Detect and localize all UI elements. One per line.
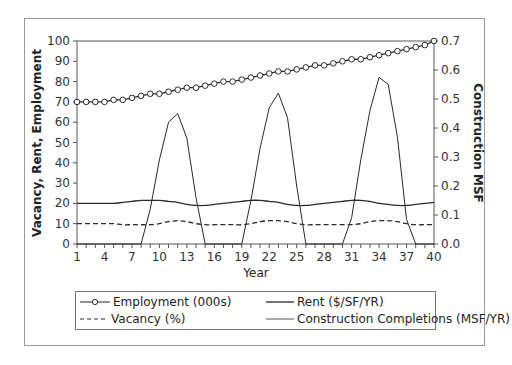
y-tick-label: 40: [55, 156, 70, 170]
y-tick-label: 30: [55, 176, 70, 190]
y2-tick-label: 0.0: [441, 237, 460, 251]
employment-point: [312, 63, 318, 69]
employment-point: [221, 79, 227, 85]
legend-swatch-vacancy: [80, 314, 108, 324]
y2-tick-label: 0.2: [441, 179, 460, 193]
y-tick-label: 60: [55, 115, 70, 129]
employment-point: [212, 81, 218, 87]
y2-axis-title: Construction MSF: [471, 83, 485, 203]
y-axis-title: Vacancy, Rent, Employment: [30, 49, 44, 237]
x-tick-label: 1: [73, 250, 81, 264]
employment-point: [266, 71, 272, 77]
employment-point: [239, 77, 245, 83]
series-line-employment-s: [77, 41, 434, 102]
y-tick-label: 70: [55, 95, 70, 109]
x-tick-label: 25: [289, 250, 304, 264]
x-tick-label: 19: [234, 250, 249, 264]
legend-swatch-employment: [80, 297, 110, 307]
employment-point: [202, 83, 208, 89]
legend-swatch-rent: [266, 297, 294, 307]
y2-tick-label: 0.5: [441, 92, 460, 106]
employment-point: [413, 44, 419, 50]
x-tick-label: 40: [426, 250, 441, 264]
employment-point: [157, 91, 163, 97]
x-tick-label: 10: [152, 250, 167, 264]
y-tick-label: 50: [55, 136, 70, 150]
legend-item-employment: Employment (000s): [80, 294, 231, 310]
series-line-rent-sf-yr: [77, 200, 434, 205]
employment-point: [276, 69, 282, 75]
employment-point: [294, 67, 300, 73]
employment-point: [340, 59, 346, 65]
legend-label-employment: Employment (000s): [113, 295, 231, 309]
x-tick-label: 37: [399, 250, 414, 264]
employment-point: [138, 93, 144, 99]
legend-item-vacancy: Vacancy (%): [80, 311, 185, 327]
legend-label-vacancy: Vacancy (%): [111, 312, 185, 326]
employment-point: [285, 69, 291, 75]
employment-point: [376, 52, 382, 58]
x-tick-label: 22: [262, 250, 277, 264]
x-tick-label: 4: [101, 250, 109, 264]
employment-point: [193, 85, 199, 91]
y-tick-label: 100: [47, 34, 70, 48]
employment-point: [358, 56, 364, 62]
employment-point: [74, 99, 80, 105]
legend-label-rent: Rent ($/SF/YR): [297, 295, 384, 309]
legend-label-construction: Construction Completions (MSF/YR): [297, 312, 510, 326]
y2-tick-label: 0.7: [441, 34, 460, 48]
employment-point: [147, 91, 153, 97]
legend: Employment (000s) Rent ($/SF/YR) Vacancy…: [75, 291, 436, 330]
employment-point: [431, 38, 437, 44]
x-tick-label: 13: [179, 250, 194, 264]
employment-point: [166, 89, 172, 95]
y-tick-label: 0: [62, 237, 70, 251]
employment-point: [331, 61, 337, 67]
employment-point: [120, 97, 126, 103]
employment-point: [129, 95, 135, 101]
series-line-vacancy: [77, 221, 434, 225]
employment-point: [385, 50, 391, 56]
legend-swatch-construction: [266, 314, 294, 324]
y-tick-label: 10: [55, 217, 70, 231]
employment-point: [422, 42, 428, 48]
employment-point: [367, 54, 373, 60]
y2-tick-label: 0.1: [441, 208, 460, 222]
y-tick-label: 20: [55, 196, 70, 210]
employment-point: [248, 75, 254, 81]
y-tick-label: 80: [55, 75, 70, 89]
employment-point: [184, 85, 190, 91]
x-tick-label: 31: [344, 250, 359, 264]
y2-tick-label: 0.3: [441, 150, 460, 164]
employment-point: [83, 99, 89, 105]
legend-item-construction: Construction Completions (MSF/YR): [266, 311, 510, 327]
y2-tick-label: 0.6: [441, 63, 460, 77]
x-tick-label: 28: [317, 250, 332, 264]
x-axis-title: Year: [242, 266, 268, 280]
employment-point: [349, 56, 355, 62]
x-tick-label: 7: [128, 250, 136, 264]
employment-point: [111, 97, 117, 103]
employment-point: [321, 63, 327, 69]
employment-point: [257, 73, 263, 79]
y-tick-label: 90: [55, 54, 70, 68]
employment-point: [230, 79, 236, 85]
x-tick-label: 34: [371, 250, 386, 264]
employment-point: [175, 87, 181, 93]
y2-tick-label: 0.4: [441, 121, 460, 135]
employment-point: [404, 46, 410, 52]
employment-point: [303, 65, 309, 71]
employment-point: [102, 99, 108, 105]
legend-item-rent: Rent ($/SF/YR): [266, 294, 384, 310]
x-tick-label: 16: [207, 250, 222, 264]
employment-point: [93, 99, 99, 105]
series-line-construction-completions-msf-yr: [77, 77, 434, 244]
employment-point: [395, 48, 401, 54]
